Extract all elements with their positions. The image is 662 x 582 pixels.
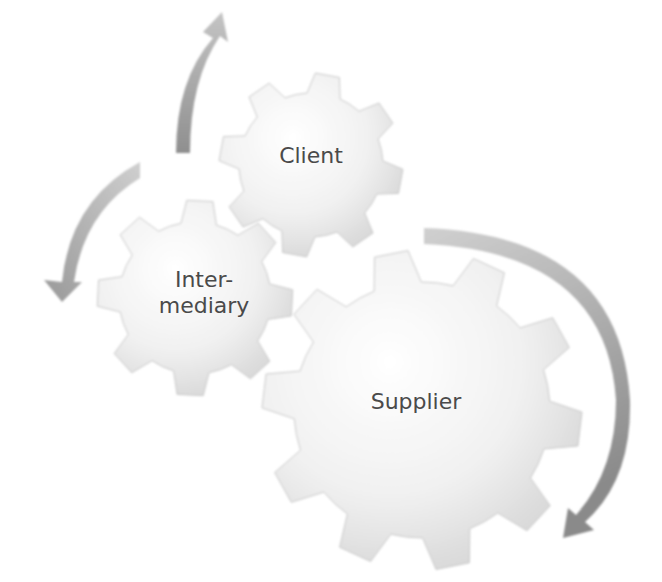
gear-label-client: Client [279, 143, 343, 169]
arrow-intermediary-to-client [176, 12, 228, 153]
gear-label-supplier: Supplier [371, 389, 462, 415]
gear-cycle-diagram: Client Inter- mediary Supplier [0, 0, 662, 582]
diagram-canvas [0, 0, 662, 582]
gear-label-intermediary: Inter- mediary [159, 267, 250, 320]
